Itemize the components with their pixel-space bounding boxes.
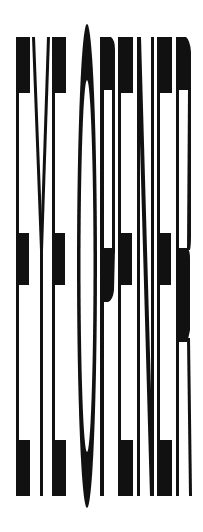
letter-r (176, 37, 192, 496)
letter-n (137, 37, 154, 496)
letter-p (100, 37, 115, 496)
letter-y (32, 37, 50, 496)
letter-o (77, 24, 97, 508)
logo-graphic (0, 0, 203, 532)
eye-opener-logo: EYE OPENER (0, 0, 203, 532)
letter-e-4 (157, 37, 172, 496)
letter-e-1 (16, 37, 30, 496)
letter-e-2 (52, 37, 66, 496)
letter-e-3 (118, 37, 133, 496)
